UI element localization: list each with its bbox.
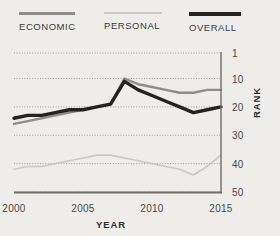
legend-swatch-overall: [189, 12, 241, 16]
chart-legend: ECONOMIC PERSONAL OVERALL: [0, 0, 280, 44]
legend-swatch-economic: [19, 12, 75, 15]
legend-item-personal: PERSONAL: [104, 12, 162, 31]
series-line-overall: [14, 81, 221, 118]
y-tick-label-10: 10: [232, 73, 244, 84]
series-line-economic: [14, 79, 221, 124]
legend-label-overall: OVERALL: [189, 22, 241, 33]
chart-plot-area: [0, 44, 280, 199]
line-chart-svg: [0, 44, 280, 199]
x-axis-title: YEAR: [0, 219, 222, 230]
legend-swatch-personal: [104, 12, 162, 14]
y-tick-label-40: 40: [232, 158, 244, 169]
gridlines: [14, 53, 221, 192]
y-axis-title: RANK: [251, 87, 262, 118]
x-tick-label-2005: 2005: [71, 203, 94, 214]
legend-item-economic: ECONOMIC: [19, 12, 75, 32]
x-tick-label-2000: 2000: [2, 203, 25, 214]
series-line-personal: [14, 155, 221, 175]
x-tick-label-2010: 2010: [140, 203, 163, 214]
x-tick-label-2015: 2015: [209, 203, 232, 214]
y-tick-label-20: 20: [232, 101, 244, 112]
y-tick-label-1: 1: [232, 48, 238, 59]
y-tick-label-50: 50: [232, 187, 244, 198]
series-lines: [14, 79, 221, 175]
legend-item-overall: OVERALL: [189, 12, 241, 33]
legend-label-personal: PERSONAL: [104, 20, 162, 31]
legend-label-economic: ECONOMIC: [19, 21, 75, 32]
y-tick-label-30: 30: [232, 130, 244, 141]
